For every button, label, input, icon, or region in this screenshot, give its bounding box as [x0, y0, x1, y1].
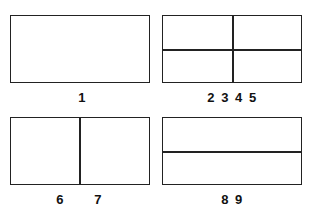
layout-label-7: 7 [94, 192, 102, 206]
layout-label-6: 6 [56, 192, 64, 206]
layout-horizontal-split [162, 117, 302, 185]
layout-label-2345: 2 3 4 5 [207, 90, 256, 105]
quad-horizontal-divider [163, 49, 301, 51]
layout-quad-pane [162, 15, 302, 83]
horizontal-split-divider [163, 151, 301, 153]
layout-label-89: 8 9 [221, 192, 243, 206]
layout-single-pane [10, 15, 150, 83]
layout-vertical-split [10, 117, 150, 185]
layout-label-1: 1 [78, 90, 86, 105]
vertical-split-divider [79, 118, 81, 184]
